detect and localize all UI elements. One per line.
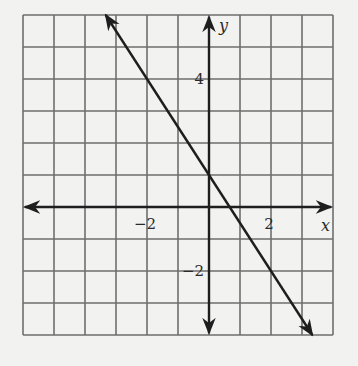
y-tick-label: 4 [194,70,204,88]
y-tick-label: −2 [182,262,204,280]
x-tick-label: 2 [264,215,274,233]
x-axis-label: x [321,216,330,235]
grid-lines [23,15,333,335]
y-axis-label: y [218,16,229,35]
coordinate-plane: x y −224−2 [0,0,358,366]
tick-labels: x y −224−2 [134,16,330,280]
x-tick-label: −2 [134,215,156,233]
